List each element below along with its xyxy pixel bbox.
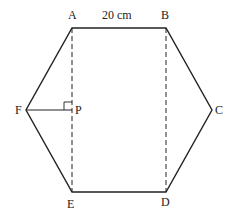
label-a: A [68,8,77,22]
label-f: F [15,103,22,117]
label-b: B [161,8,169,22]
right-angle-marker [64,102,72,110]
label-d: D [161,195,170,209]
label-c: C [215,103,223,117]
diagram-canvas: A B C D E F P 20 cm [0,0,234,221]
label-p: P [75,103,82,117]
label-e: E [67,197,74,211]
side-length-label: 20 cm [102,8,132,22]
hexagon-diagram: A B C D E F P 20 cm [0,0,234,221]
